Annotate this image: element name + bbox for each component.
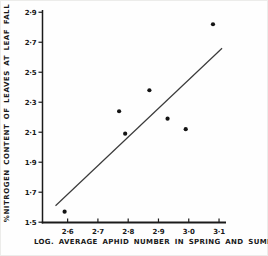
y-tick-label: 2·3 bbox=[25, 99, 37, 107]
data-point bbox=[147, 88, 151, 92]
y-tick-label: 2·1 bbox=[25, 129, 37, 137]
y-tick-label: 1·5 bbox=[25, 219, 37, 227]
trend-line bbox=[56, 48, 223, 205]
x-tick-label: 2·8 bbox=[122, 228, 134, 236]
x-tick-label: 2·9 bbox=[153, 228, 165, 236]
data-point bbox=[117, 109, 121, 113]
scatter-figure: 1·51·71·92·12·32·52·72·92·62·72·82·93·03… bbox=[0, 0, 268, 256]
data-point bbox=[63, 210, 67, 214]
x-tick-label: 2·6 bbox=[62, 228, 74, 236]
y-tick-label: 2·5 bbox=[25, 69, 37, 77]
data-point bbox=[165, 117, 169, 121]
data-point bbox=[211, 22, 215, 26]
x-tick-label: 3·0 bbox=[183, 228, 195, 236]
y-tick-label: 1·9 bbox=[25, 159, 37, 167]
data-point bbox=[184, 127, 188, 131]
y-tick-label: 1·7 bbox=[25, 189, 37, 197]
y-tick-label: 2·7 bbox=[25, 39, 37, 47]
x-tick-label: 3·1 bbox=[213, 228, 225, 236]
x-axis-title: LOG. AVERAGE APHID NUMBER IN SPRING AND … bbox=[34, 238, 268, 248]
plot-svg: 1·51·71·92·12·32·52·72·92·62·72·82·93·03… bbox=[0, 0, 268, 256]
data-point bbox=[123, 132, 127, 136]
y-tick-label: 2·9 bbox=[25, 9, 37, 17]
x-tick-label: 2·7 bbox=[92, 228, 104, 236]
y-axis-title: %NITROGEN CONTENT OF LEAVES AT LEAF FALL bbox=[3, 0, 13, 241]
